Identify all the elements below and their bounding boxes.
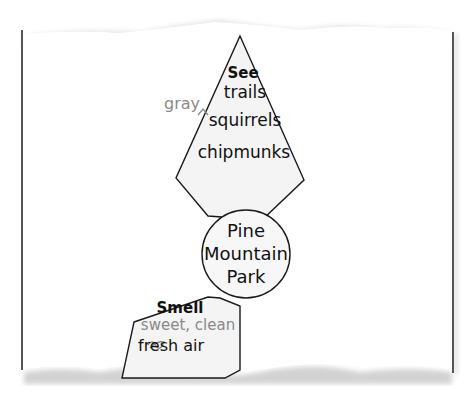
center-line-pine: Pine [202, 220, 290, 242]
see-item-squirrels: squirrels [202, 110, 288, 130]
diagram-page: See trails squirrels chipmunks gray Pine… [0, 0, 471, 397]
see-item-trails: trails [210, 82, 280, 102]
see-insertion-gray: gray [160, 94, 204, 113]
smell-heading: Smell [150, 299, 210, 317]
see-item-chipmunks: chipmunks [188, 142, 300, 162]
center-line-mountain: Mountain [198, 243, 294, 265]
diagram-canvas [0, 0, 471, 397]
center-line-park: Park [202, 266, 290, 288]
see-heading: See [223, 64, 263, 82]
smell-item-sweet-clean: sweet, clean [138, 316, 238, 334]
smell-item-fresh-air: fresh air [138, 336, 216, 355]
